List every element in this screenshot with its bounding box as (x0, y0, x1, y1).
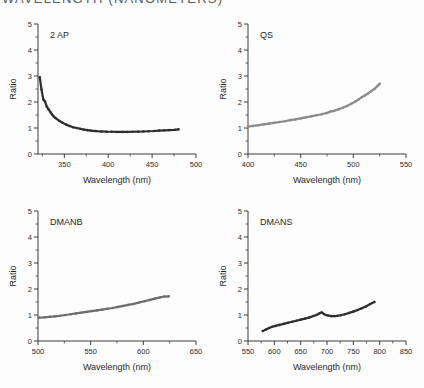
data-point (354, 100, 357, 103)
y-tick-label: 2 (28, 285, 32, 294)
data-point (365, 305, 368, 308)
y-axis-title: Ratio (218, 265, 228, 286)
y-tick-label: 3 (28, 259, 32, 268)
data-point (262, 330, 265, 333)
data-point (361, 96, 364, 99)
data-point (352, 310, 355, 313)
y-tick-label: 2 (238, 285, 242, 294)
data-point (80, 311, 83, 314)
data-point (289, 119, 292, 122)
data-point (312, 315, 315, 318)
axis-lines (38, 211, 196, 341)
data-point (43, 316, 46, 319)
data-point (167, 295, 170, 298)
data-point (168, 129, 171, 132)
chart-panel-dmans: 012345550600650700750800850DMANSWaveleng… (210, 195, 422, 385)
chart-panel-qs: 012345400450500550QSWavelength (nm)Ratio (210, 8, 422, 198)
data-point (174, 129, 177, 132)
data-point (305, 116, 308, 119)
data-point (59, 315, 62, 318)
y-tick-label: 5 (28, 20, 32, 29)
data-point (47, 108, 50, 111)
data-point (333, 315, 336, 318)
data-point (268, 122, 271, 125)
y-tick-label: 0 (238, 150, 242, 159)
data-point (112, 307, 115, 310)
data-point (163, 129, 166, 132)
data-point (147, 130, 150, 133)
x-tick-label: 850 (400, 347, 413, 356)
panel-title: QS (260, 30, 273, 40)
y-axis-title: Ratio (8, 78, 18, 99)
data-point (105, 130, 108, 133)
x-tick-label: 750 (347, 347, 360, 356)
data-point (265, 328, 268, 331)
data-point (356, 309, 359, 312)
data-point (294, 118, 297, 121)
data-point (339, 314, 342, 317)
data-point (327, 314, 330, 317)
x-tick-label: 800 (373, 347, 386, 356)
y-tick-label: 3 (238, 259, 242, 268)
x-axis-title: Wavelength (nm) (293, 175, 361, 185)
data-point (54, 117, 57, 120)
chart-svg: 012345400450500550QSWavelength (nm)Ratio (210, 8, 422, 198)
y-tick-label: 2 (28, 98, 32, 107)
cut-off-header-label: WAVELENGTH (NANOMETERS) (2, 0, 223, 6)
data-point (49, 111, 52, 114)
data-point (348, 312, 351, 315)
data-point (304, 317, 307, 320)
data-point (89, 129, 92, 132)
data-point (86, 129, 89, 132)
data-point (369, 303, 372, 306)
data-point (68, 125, 71, 128)
data-point (370, 90, 373, 93)
data-point (39, 76, 42, 79)
y-tick-label: 5 (28, 207, 32, 216)
panel-title: DMANB (50, 217, 83, 227)
data-point (320, 311, 323, 314)
chart-panel-dmanb: 012345500550600650DMANBWavelength (nm)Ra… (0, 195, 212, 385)
data-point (46, 105, 49, 108)
data-point (252, 125, 255, 128)
data-point (364, 94, 367, 97)
chart-panel-2ap: 0123453504004505002 APWavelength (nm)Rat… (0, 8, 212, 198)
data-point (121, 131, 124, 134)
data-point (333, 110, 336, 113)
data-point (142, 130, 145, 133)
x-tick-label: 600 (137, 347, 150, 356)
data-series-trace (248, 84, 380, 127)
data-series-trace (263, 302, 375, 331)
x-tick-label: 700 (321, 347, 334, 356)
y-tick-label: 0 (238, 337, 242, 346)
data-point (367, 92, 370, 95)
data-point (291, 321, 294, 324)
y-tick-label: 3 (238, 72, 242, 81)
x-tick-label: 500 (190, 160, 203, 169)
data-point (69, 313, 72, 316)
data-point (72, 126, 75, 129)
data-point (116, 131, 119, 134)
y-tick-label: 1 (28, 124, 32, 133)
data-point (75, 127, 78, 130)
x-axis-title: Wavelength (nm) (83, 175, 151, 185)
x-tick-label: 650 (294, 347, 307, 356)
data-point (287, 322, 290, 325)
axis-lines (248, 211, 406, 341)
x-tick-label: 450 (294, 160, 307, 169)
data-point (315, 314, 318, 317)
data-point (299, 318, 302, 321)
data-point (117, 306, 120, 309)
data-point (320, 113, 323, 116)
y-tick-label: 4 (238, 233, 242, 242)
data-point (48, 316, 51, 319)
data-point (126, 131, 129, 134)
data-point (148, 299, 151, 302)
data-point (344, 313, 347, 316)
data-point (376, 85, 379, 88)
y-tick-label: 2 (238, 98, 242, 107)
data-point (346, 105, 349, 108)
data-point (350, 103, 353, 106)
y-tick-label: 3 (28, 72, 32, 81)
data-point (274, 325, 277, 328)
